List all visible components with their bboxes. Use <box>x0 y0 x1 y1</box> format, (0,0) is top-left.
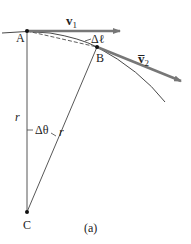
v2-label: v̅2 <box>137 51 149 68</box>
point-a-dot <box>25 29 29 33</box>
arc-length-label: Δℓ <box>91 32 105 46</box>
radius-left-label: r <box>15 110 20 124</box>
angle-tick-right <box>51 133 56 136</box>
point-c-label: C <box>23 218 31 232</box>
circular-motion-diagram: A B C v1 v̅2 Δℓ r r Δθ (a) <box>0 0 191 244</box>
radius-right-label: r <box>59 125 64 139</box>
chord-ab <box>27 31 97 47</box>
circular-path <box>2 32 165 103</box>
point-b-label: B <box>96 51 104 65</box>
figure-caption: (a) <box>84 221 97 235</box>
point-a-label: A <box>16 31 25 45</box>
angle-label: Δθ <box>35 123 49 137</box>
v1-label: v1 <box>66 13 77 30</box>
point-c-dot <box>25 210 29 214</box>
